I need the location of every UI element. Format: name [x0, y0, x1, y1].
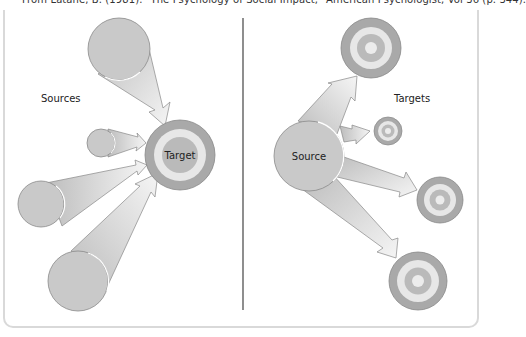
target-circle-top	[341, 18, 401, 78]
targets-label: Targets	[393, 93, 430, 104]
sources-label: Sources	[41, 93, 81, 104]
right-panel-multiple-targets: Source Targets	[274, 18, 463, 310]
target-circle-small	[374, 117, 402, 145]
source-circle-small	[87, 129, 115, 157]
source-circle: Source	[274, 121, 344, 191]
target-circle-middle	[417, 177, 463, 223]
source-circle-bottom	[48, 251, 109, 311]
target-label: Target	[164, 150, 196, 161]
source-circle-top	[88, 18, 150, 80]
source-label: Source	[292, 151, 326, 162]
target-circle-bottom	[389, 252, 447, 310]
target-circle: Target	[145, 120, 215, 190]
arrow-to-small-target	[340, 125, 370, 144]
left-panel-multiple-sources: Target Sources	[18, 18, 215, 311]
source-circle-middle	[18, 181, 65, 227]
